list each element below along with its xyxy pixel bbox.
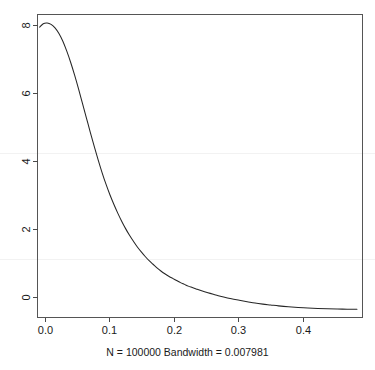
- density-plot-figure: 0 2 4 6 8 0.0 0.1 0.2 0.3 0.4: [0, 0, 375, 370]
- x-tick-label-3: 0.3: [231, 324, 246, 336]
- x-tick-label-0: 0.0: [38, 324, 53, 336]
- figure-background: [0, 0, 375, 370]
- x-tick-label-2: 0.2: [167, 324, 182, 336]
- x-axis-caption: N = 100000 Bandwidth = 0.007981: [106, 346, 268, 358]
- y-tick-label-8: 8: [20, 22, 32, 28]
- y-tick-label-0: 0: [20, 294, 32, 300]
- y-tick-label-4: 4: [20, 158, 32, 164]
- x-tick-label-1: 0.1: [102, 324, 117, 336]
- chart-canvas: 0 2 4 6 8 0.0 0.1 0.2 0.3 0.4: [0, 0, 375, 370]
- y-tick-label-6: 6: [20, 90, 32, 96]
- x-tick-label-4: 0.4: [296, 324, 311, 336]
- y-tick-label-2: 2: [20, 226, 32, 232]
